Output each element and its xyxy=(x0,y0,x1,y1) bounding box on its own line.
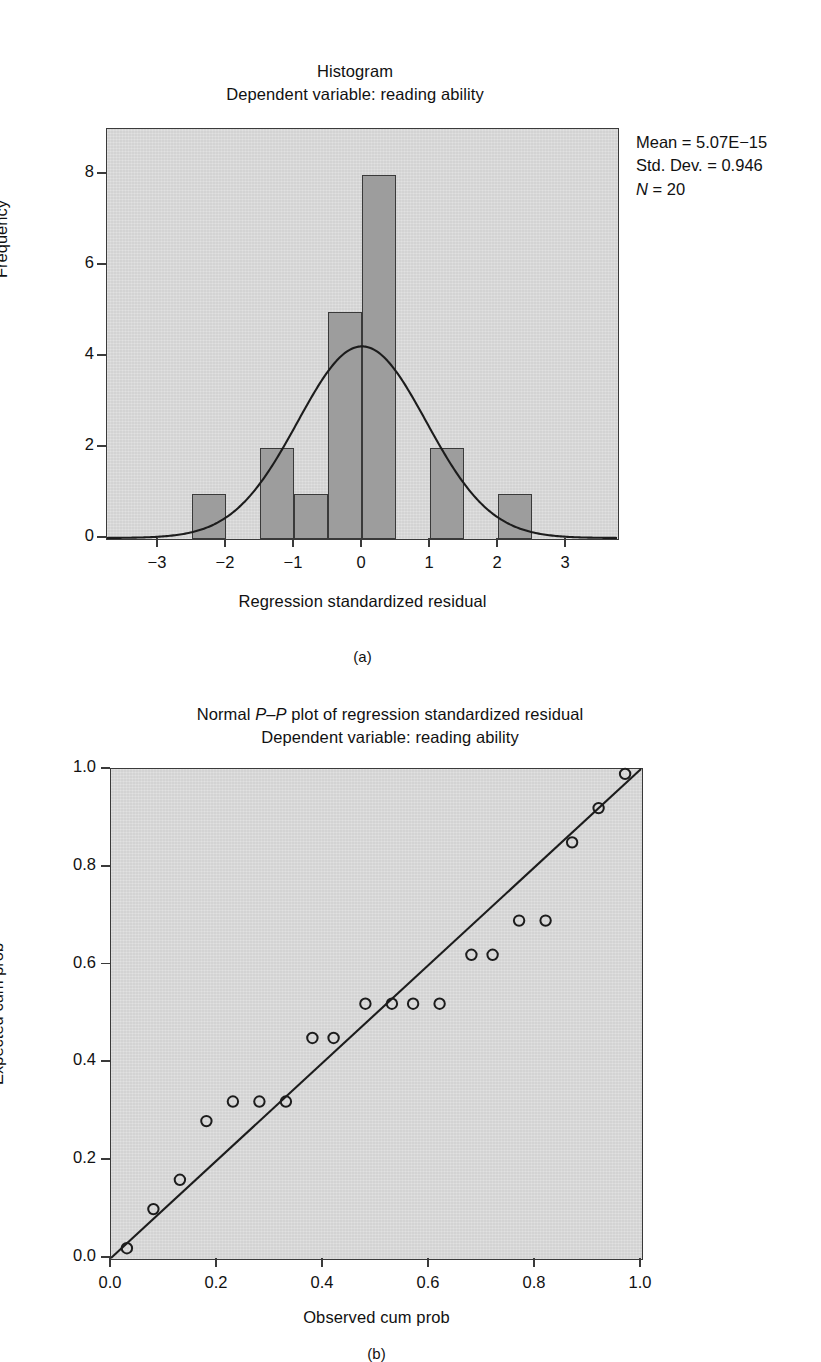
pp-y-tick-mark xyxy=(101,1158,110,1160)
pp-x-tick-mark xyxy=(639,1258,641,1267)
pp-y-tick-label: 0.2 xyxy=(52,1148,96,1167)
pp-plot-title-block: Normal P–P plot of regression standardiz… xyxy=(40,703,740,750)
pp-data-point xyxy=(254,1096,264,1106)
pp-y-tick-label: 0.0 xyxy=(52,1246,96,1265)
normal-distribution-curve xyxy=(107,129,617,538)
histogram-y-tick-label: 8 xyxy=(72,162,94,181)
pp-data-point xyxy=(434,999,444,1009)
histogram-x-tick-label: −2 xyxy=(205,553,245,572)
histogram-y-tick-mark xyxy=(97,354,106,356)
pp-y-tick-mark xyxy=(101,963,110,965)
histogram-y-tick-mark xyxy=(97,263,106,265)
histogram-x-tick-label: −3 xyxy=(137,553,177,572)
histogram-x-tick-mark xyxy=(360,538,362,547)
pp-plot-x-axis-label: Observed cum prob xyxy=(110,1308,643,1327)
histogram-x-tick-mark xyxy=(428,538,430,547)
pp-data-point xyxy=(540,915,550,925)
pp-data-point xyxy=(228,1096,238,1106)
histogram-y-tick-mark xyxy=(97,445,106,447)
pp-x-tick-label: 0.6 xyxy=(402,1273,454,1292)
histogram-y-tick-label: 6 xyxy=(72,253,94,272)
pp-x-tick-mark xyxy=(321,1258,323,1267)
pp-y-tick-mark xyxy=(101,1060,110,1062)
pp-title-post: plot of regression standardized residual xyxy=(287,705,584,723)
stat-n-symbol: N xyxy=(636,180,648,198)
panel-letter-a: (a) xyxy=(106,648,619,665)
histogram-y-tick-label: 2 xyxy=(72,435,94,454)
pp-plot-subtitle: Dependent variable: reading ability xyxy=(40,726,740,749)
pp-plot-canvas xyxy=(111,769,641,1258)
pp-data-point xyxy=(328,1033,338,1043)
pp-x-tick-label: 0.8 xyxy=(508,1273,560,1292)
pp-title-italic: P–P xyxy=(255,705,287,723)
pp-x-tick-label: 1.0 xyxy=(614,1273,666,1292)
pp-plot-y-axis-label: Expected cum prob xyxy=(0,943,7,1085)
pp-data-point xyxy=(307,1033,317,1043)
histogram-subtitle: Dependent variable: reading ability xyxy=(60,83,650,106)
pp-plot-title: Normal P–P plot of regression standardiz… xyxy=(40,703,740,726)
pp-data-point xyxy=(620,769,630,779)
pp-y-tick-mark xyxy=(101,865,110,867)
pp-y-tick-label: 0.6 xyxy=(52,953,96,972)
histogram-plot-area xyxy=(106,128,619,540)
pp-data-point xyxy=(360,999,370,1009)
histogram-x-axis-label: Regression standardized residual xyxy=(106,592,619,611)
pp-data-point xyxy=(148,1204,158,1214)
pp-reference-line xyxy=(111,769,641,1258)
histogram-title: Histogram xyxy=(60,60,650,83)
pp-y-tick-label: 0.8 xyxy=(52,855,96,874)
pp-data-point xyxy=(466,950,476,960)
histogram-x-tick-mark xyxy=(156,538,158,547)
pp-x-tick-mark xyxy=(215,1258,217,1267)
pp-y-tick-mark xyxy=(101,767,110,769)
pp-data-points xyxy=(122,769,631,1254)
figure-b-pp-plot: Normal P–P plot of regression standardiz… xyxy=(0,690,821,1330)
pp-title-pre: Normal xyxy=(197,705,255,723)
panel-letter-b: (b) xyxy=(110,1345,643,1362)
histogram-y-tick-label: 0 xyxy=(72,526,94,545)
histogram-x-tick-mark xyxy=(224,538,226,547)
pp-x-tick-label: 0.0 xyxy=(84,1273,136,1292)
histogram-x-tick-label: 2 xyxy=(477,553,517,572)
histogram-x-tick-mark xyxy=(292,538,294,547)
histogram-x-tick-mark xyxy=(496,538,498,547)
histogram-title-block: Histogram Dependent variable: reading ab… xyxy=(60,60,650,107)
pp-x-tick-mark xyxy=(109,1258,111,1267)
pp-x-tick-label: 0.4 xyxy=(296,1273,348,1292)
pp-x-tick-label: 0.2 xyxy=(190,1273,242,1292)
pp-data-point xyxy=(201,1116,211,1126)
histogram-stats-annotation: Mean = 5.07E−15 Std. Dev. = 0.946 N = 20 xyxy=(636,131,767,201)
histogram-x-tick-label: 1 xyxy=(409,553,449,572)
figure-a-histogram: Histogram Dependent variable: reading ab… xyxy=(0,0,821,690)
histogram-y-tick-mark xyxy=(97,172,106,174)
pp-y-tick-label: 0.4 xyxy=(52,1050,96,1069)
histogram-y-tick-label: 4 xyxy=(72,344,94,363)
pp-y-tick-label: 1.0 xyxy=(52,757,96,776)
pp-data-point xyxy=(408,999,418,1009)
histogram-x-tick-label: 3 xyxy=(545,553,585,572)
pp-data-point xyxy=(514,915,524,925)
pp-x-tick-mark xyxy=(427,1258,429,1267)
stat-std-dev: Std. Dev. = 0.946 xyxy=(636,154,767,177)
pp-x-tick-mark xyxy=(533,1258,535,1267)
histogram-x-tick-label: 0 xyxy=(341,553,381,572)
pp-data-point xyxy=(175,1175,185,1185)
pp-plot-area xyxy=(110,768,643,1260)
histogram-x-tick-label: −1 xyxy=(273,553,313,572)
histogram-x-tick-mark xyxy=(564,538,566,547)
stat-n-value: = 20 xyxy=(648,180,685,198)
stat-mean: Mean = 5.07E−15 xyxy=(636,131,767,154)
stat-n: N = 20 xyxy=(636,178,767,201)
pp-data-point xyxy=(567,837,577,847)
histogram-y-tick-mark xyxy=(97,536,106,538)
pp-data-point xyxy=(487,950,497,960)
histogram-y-axis-label: Frequency xyxy=(0,200,11,278)
